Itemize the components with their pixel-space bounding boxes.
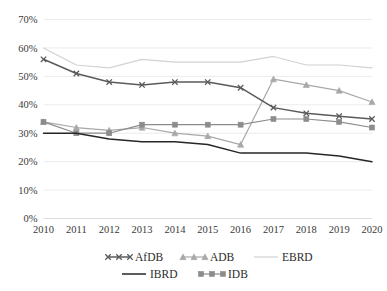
x-tick-label: 2013: [132, 224, 153, 235]
legend-item-afdb[interactable]: AfDB: [105, 251, 163, 263]
chart-legend: AfDBADBEBRDIBRDIDB: [105, 251, 312, 280]
data-point-marker: [41, 57, 46, 62]
legend-item-ebrd[interactable]: EBRD: [254, 251, 313, 263]
y-tick-label: 30%: [18, 128, 38, 139]
series-ebrd: [44, 48, 373, 68]
x-tick-label: 2016: [230, 224, 251, 235]
series-adb: [40, 76, 375, 147]
y-axis-tick-labels: 0%10%20%30%40%50%60%70%: [18, 14, 38, 224]
y-tick-label: 60%: [18, 43, 38, 54]
data-point-marker: [140, 122, 145, 127]
legend-label: IDB: [228, 268, 248, 280]
x-tick-label: 2015: [197, 224, 218, 235]
x-tick-label: 2018: [296, 224, 317, 235]
data-point-marker: [370, 125, 375, 130]
data-point-marker: [199, 272, 204, 277]
legend-item-ibrd[interactable]: IBRD: [122, 268, 177, 280]
legend-label: ADB: [210, 251, 235, 263]
y-tick-label: 70%: [18, 14, 38, 25]
data-point-marker: [337, 119, 342, 124]
x-tick-label: 2017: [263, 224, 284, 235]
gridlines: [44, 20, 373, 219]
x-tick-label: 2010: [33, 224, 54, 235]
data-point-marker: [210, 272, 215, 277]
y-tick-label: 20%: [18, 156, 38, 167]
legend-item-adb[interactable]: ADB: [180, 251, 235, 263]
legend-item-idb[interactable]: IDB: [199, 268, 249, 280]
y-tick-label: 10%: [18, 185, 38, 196]
data-point-marker: [172, 122, 177, 127]
series-line: [44, 48, 373, 68]
data-point-marker: [41, 119, 46, 124]
x-tick-label: 2012: [99, 224, 120, 235]
data-point-marker: [221, 272, 226, 277]
x-tick-label: 2019: [329, 224, 350, 235]
y-tick-label: 0%: [24, 213, 38, 224]
x-tick-label: 2020: [362, 224, 383, 235]
x-axis-tick-labels: 2010201120122013201420152016201720182019…: [33, 224, 383, 235]
line-chart: 0%10%20%30%40%50%60%70% 2010201120122013…: [0, 0, 387, 291]
data-point-marker: [304, 117, 309, 122]
legend-label: AfDB: [135, 251, 163, 263]
legend-label: IBRD: [150, 268, 177, 280]
data-point-marker: [107, 131, 112, 136]
x-tick-label: 2011: [66, 224, 87, 235]
data-point-marker: [205, 122, 210, 127]
data-point-marker: [238, 122, 243, 127]
legend-label: EBRD: [282, 251, 313, 263]
y-tick-label: 40%: [18, 99, 38, 110]
x-tick-label: 2014: [164, 224, 186, 235]
data-point-marker: [271, 117, 276, 122]
chart-canvas: 0%10%20%30%40%50%60%70% 2010201120122013…: [0, 0, 387, 291]
series-line: [44, 59, 373, 119]
y-tick-label: 50%: [18, 71, 38, 82]
